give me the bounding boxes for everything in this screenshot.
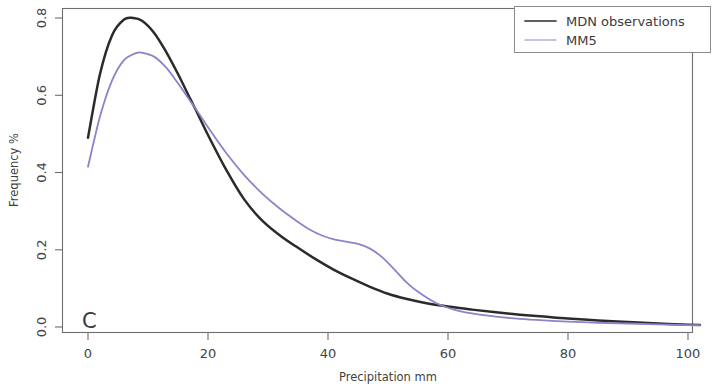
x-tick-label-60: 60 [440, 346, 457, 361]
x-axis-title: Precipitation mm [339, 370, 437, 384]
y-tick-label-0.2: 0.2 [34, 239, 49, 260]
y-axis-ticks [55, 18, 63, 327]
y-tick-label-0.4: 0.4 [34, 162, 49, 183]
y-axis-tick-labels: 0.0 0.2 0.4 0.6 0.8 [34, 8, 49, 338]
series-line-mdn-observations [88, 18, 700, 325]
y-tick-label-0.6: 0.6 [34, 85, 49, 106]
x-axis-tick-labels: 0 20 40 60 80 100 [84, 346, 701, 361]
y-axis-title: Frequency % [7, 133, 21, 207]
panel-label: C [82, 309, 97, 333]
y-tick-label-0.8: 0.8 [34, 8, 49, 29]
x-axis-ticks [88, 333, 688, 341]
x-tick-label-100: 100 [676, 346, 701, 361]
x-tick-label-40: 40 [320, 346, 337, 361]
legend-label-mdn-observations: MDN observations [566, 14, 685, 29]
series-line-mm5 [88, 52, 700, 325]
chart-figure: 0 20 40 60 80 100 0.0 0.2 0.4 0.6 0.8 Fr… [0, 0, 718, 392]
x-tick-label-20: 20 [200, 346, 217, 361]
legend-label-mm5: MM5 [566, 33, 597, 48]
plot-frame [63, 9, 693, 333]
legend: MDN observations MM5 [515, 7, 711, 53]
x-tick-label-0: 0 [84, 346, 92, 361]
x-tick-label-80: 80 [560, 346, 577, 361]
y-tick-label-0.0: 0.0 [34, 317, 49, 338]
series-layer [88, 18, 700, 326]
plot-canvas: 0 20 40 60 80 100 0.0 0.2 0.4 0.6 0.8 Fr… [0, 0, 718, 392]
